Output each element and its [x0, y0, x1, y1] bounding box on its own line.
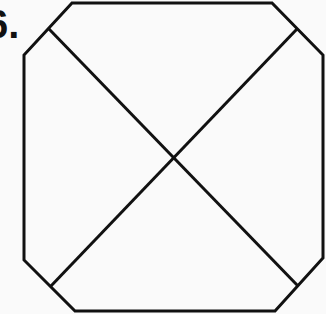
octagon-diagram — [0, 0, 326, 314]
